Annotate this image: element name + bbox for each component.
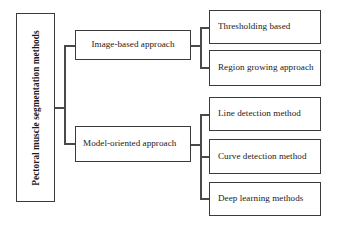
node-deep-learning-methods: Deep learning methods xyxy=(209,182,321,216)
connector-image-based-trunk xyxy=(200,27,202,68)
node-line-detection-method-label: Line detection method xyxy=(218,108,301,120)
node-model-oriented-approach: Model-oriented approach xyxy=(75,126,191,162)
node-thresholding-based: Thresholding based xyxy=(209,10,321,44)
node-region-growing-approach-label: Region growing approach xyxy=(218,62,314,74)
connector-root-trunk xyxy=(64,45,66,144)
node-deep-learning-methods-label: Deep learning methods xyxy=(218,193,303,205)
connector-root-to-model-oriented xyxy=(64,143,75,145)
node-model-oriented-approach-label: Model-oriented approach xyxy=(83,138,176,150)
node-line-detection-method: Line detection method xyxy=(209,97,321,131)
node-curve-detection-method: Curve detection method xyxy=(209,139,321,174)
node-region-growing-approach: Region growing approach xyxy=(209,50,321,86)
node-image-based-approach-label: Image-based approach xyxy=(83,39,190,51)
connector-to-thresholding xyxy=(200,27,209,29)
node-thresholding-based-label: Thresholding based xyxy=(218,21,290,33)
connector-to-region-growing xyxy=(200,67,209,69)
connector-to-line-detection xyxy=(200,114,209,116)
node-root: Pectoral muscle segmentation methods xyxy=(16,13,55,202)
node-image-based-approach: Image-based approach xyxy=(75,30,191,60)
flowchart-canvas: Pectoral muscle segmentation methods Ima… xyxy=(0,0,342,225)
node-curve-detection-method-label: Curve detection method xyxy=(218,151,306,163)
connector-to-deep-learning xyxy=(200,198,209,200)
connector-to-curve-detection xyxy=(200,156,209,158)
connector-root-to-image-based xyxy=(64,45,75,47)
node-root-label: Pectoral muscle segmentation methods xyxy=(30,30,42,185)
